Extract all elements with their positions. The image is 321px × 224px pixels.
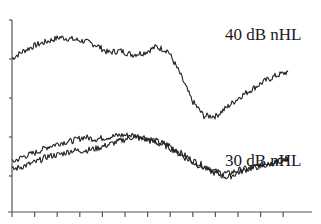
annotation-40db: 40 dB nHL	[225, 25, 302, 44]
waveform-trace-0	[12, 36, 288, 119]
y-axis	[9, 20, 12, 212]
annotation-30db: 30 dB nHL	[225, 151, 302, 170]
abr-waveform-chart: 40 dB nHL 30 dB nHL	[0, 0, 321, 224]
x-axis	[8, 212, 312, 217]
